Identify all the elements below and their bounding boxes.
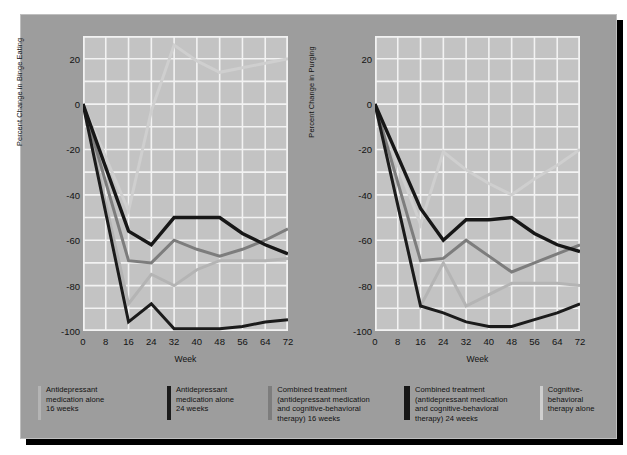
x-axis-label-binge-eating: Week xyxy=(83,354,288,364)
x-tick-label: 64 xyxy=(546,336,568,347)
y-tick-label: -80 xyxy=(40,280,80,291)
legend-label: Cognitive-behavioral therapy alone xyxy=(548,385,607,414)
y-tick-label: -100 xyxy=(40,326,80,337)
series-lines-right xyxy=(375,36,580,331)
y-axis-ticks-left: 200-20-40-60-80-100 xyxy=(36,36,80,331)
y-tick-label: -100 xyxy=(332,326,372,337)
legend-color-swatch xyxy=(540,386,543,420)
y-tick-label: -40 xyxy=(332,189,372,200)
legend-label: Combined treatment (antidepressant medic… xyxy=(277,385,369,423)
x-axis-ticks-right: 081624324048566472 xyxy=(375,336,580,352)
x-tick-label: 24 xyxy=(432,336,454,347)
legend: Antidepressant medication alone 16 weeks… xyxy=(30,385,607,431)
x-axis-ticks-left: 081624324048566472 xyxy=(83,336,288,352)
y-tick-label: 0 xyxy=(40,99,80,110)
y-tick-label: -60 xyxy=(332,235,372,246)
legend-item: Antidepressant medication alone 24 weeks xyxy=(167,385,268,420)
legend-label: Antidepressant medication alone 16 weeks xyxy=(46,385,104,414)
figure-root: Percent Change in Binge Eating 200-20-40… xyxy=(0,0,627,455)
y-tick-label: -20 xyxy=(40,144,80,155)
series-line xyxy=(83,104,288,304)
legend-label: Combined treatment (antidepressant medic… xyxy=(415,385,507,423)
x-tick-label: 40 xyxy=(186,336,208,347)
y-tick-label: -40 xyxy=(40,189,80,200)
x-axis-label-purging: Week xyxy=(375,354,580,364)
chart-purging: Percent Change in Purging 200-20-40-60-8… xyxy=(312,14,610,374)
legend-color-swatch xyxy=(167,386,171,420)
x-tick-label: 0 xyxy=(72,336,94,347)
x-tick-label: 40 xyxy=(478,336,500,347)
x-tick-label: 72 xyxy=(277,336,299,347)
y-axis-ticks-right: 200-20-40-60-80-100 xyxy=(328,36,372,331)
legend-color-swatch xyxy=(404,386,410,420)
x-tick-label: 48 xyxy=(501,336,523,347)
plot-area-purging xyxy=(375,36,580,331)
y-tick-label: -80 xyxy=(332,280,372,291)
y-tick-label: 0 xyxy=(332,99,372,110)
x-tick-label: 56 xyxy=(523,336,545,347)
plot-area-binge-eating xyxy=(83,36,288,331)
x-tick-label: 8 xyxy=(387,336,409,347)
x-tick-label: 32 xyxy=(455,336,477,347)
y-tick-label: 20 xyxy=(332,53,372,64)
x-tick-label: 24 xyxy=(140,336,162,347)
y-tick-label: -20 xyxy=(332,144,372,155)
y-tick-label: 20 xyxy=(40,53,80,64)
x-tick-label: 16 xyxy=(410,336,432,347)
legend-item: Cognitive-behavioral therapy alone xyxy=(540,385,607,420)
legend-color-swatch xyxy=(268,386,272,420)
chart-binge-eating: Percent Change in Binge Eating 200-20-40… xyxy=(20,14,318,374)
legend-item: Combined treatment (antidepressant medic… xyxy=(404,385,540,423)
y-tick-label: -60 xyxy=(40,235,80,246)
x-tick-label: 48 xyxy=(209,336,231,347)
legend-label: Antidepressant medication alone 24 weeks xyxy=(176,385,234,414)
figure-panel: Percent Change in Binge Eating 200-20-40… xyxy=(20,14,617,439)
legend-item: Combined treatment (antidepressant medic… xyxy=(268,385,404,423)
y-axis-label-purging: Percent Change in Purging xyxy=(316,0,325,92)
y-axis-label-binge-eating: Percent Change in Binge Eating xyxy=(24,0,33,92)
legend-item: Antidepressant medication alone 16 weeks xyxy=(38,385,167,420)
x-tick-label: 0 xyxy=(364,336,386,347)
legend-color-swatch xyxy=(38,386,41,420)
x-tick-label: 56 xyxy=(231,336,253,347)
x-tick-label: 72 xyxy=(569,336,591,347)
series-line xyxy=(375,104,580,326)
x-tick-label: 64 xyxy=(254,336,276,347)
series-lines-left xyxy=(83,36,288,331)
x-tick-label: 8 xyxy=(95,336,117,347)
x-tick-label: 32 xyxy=(163,336,185,347)
x-tick-label: 16 xyxy=(118,336,140,347)
